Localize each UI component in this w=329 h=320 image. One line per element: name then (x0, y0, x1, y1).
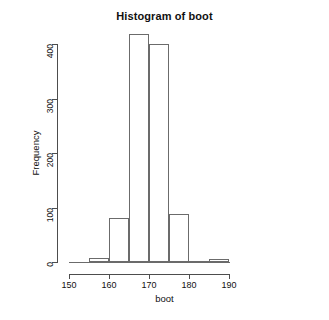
histogram-bar (109, 218, 129, 262)
x-axis-title: boot (0, 293, 329, 304)
page-title: Histogram of boot (0, 10, 329, 22)
histogram-bar (209, 259, 229, 262)
y-axis-tick-label: 100 (45, 208, 55, 222)
y-axis-title: Frequency (30, 131, 41, 176)
histogram-bar (129, 34, 149, 262)
histogram-plot: Histogram of boot 0100200300400 15016017… (0, 0, 329, 320)
x-axis-tick-label: 180 (181, 280, 196, 290)
y-axis-tick-label: 200 (45, 153, 55, 167)
histogram-bar (149, 44, 169, 262)
histogram-bar (89, 258, 109, 262)
x-axis-tick (189, 274, 190, 279)
histogram-bar (169, 214, 189, 262)
x-axis-tick-label: 160 (101, 280, 116, 290)
x-axis-tick-label: 170 (141, 280, 156, 290)
x-axis-tick (69, 274, 70, 279)
y-axis-tick-label: 0 (45, 262, 55, 267)
y-axis-tick-label: 300 (45, 99, 55, 113)
y-axis-tick-label: 400 (45, 44, 55, 58)
x-axis-tick-label: 150 (61, 280, 76, 290)
x-axis-tick (109, 274, 110, 279)
x-axis-tick-label: 190 (221, 280, 236, 290)
y-axis-line (57, 44, 58, 263)
x-axis-tick (149, 274, 150, 279)
histogram-bar (189, 261, 209, 263)
x-axis-tick (229, 274, 230, 279)
